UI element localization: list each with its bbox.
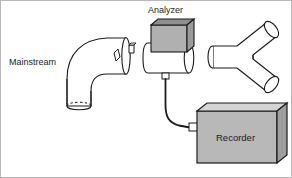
- analyzer-box-side: [187, 19, 194, 52]
- diagram-svg: Mainstream Analyzer: [1, 1, 292, 178]
- recorder-side-face: [277, 103, 287, 163]
- diagram-canvas: Mainstream Analyzer: [0, 0, 292, 178]
- label-mainstream: Mainstream: [9, 57, 56, 67]
- elbow-body: [67, 38, 126, 106]
- y-connector-left-cap: [208, 46, 213, 68]
- analyzer-box-front: [151, 25, 187, 52]
- elbow-port-tab-top: [129, 43, 136, 45]
- y-connector: [208, 19, 281, 95]
- analyzer-cylinder-left-cap: [143, 43, 148, 73]
- signal-cable: [166, 79, 199, 131]
- label-analyzer: Analyzer: [148, 5, 183, 15]
- elbow-bottom-front-arc: [67, 106, 91, 110]
- cable-path: [166, 79, 191, 128]
- mainstream-elbow-tube: [67, 38, 136, 110]
- elbow-port-tab: [129, 45, 134, 53]
- label-recorder: Recorder: [216, 132, 255, 143]
- recorder-top-face: [197, 103, 287, 111]
- analyzer-unit: [143, 19, 194, 79]
- elbow-right-end-ellipse: [122, 38, 130, 74]
